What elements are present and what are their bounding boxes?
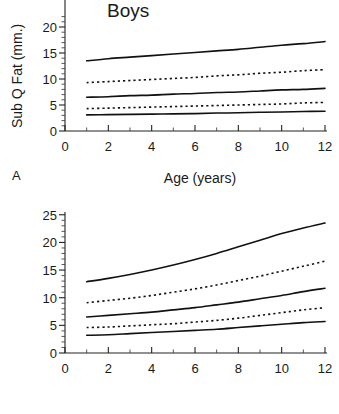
x-tick-label: 10 bbox=[274, 362, 288, 375]
x-tick-label: 6 bbox=[191, 362, 198, 375]
data-curve-4 bbox=[87, 321, 325, 335]
data-curve-3 bbox=[87, 308, 325, 328]
data-curve-0 bbox=[87, 42, 325, 61]
x-tick-label: 10 bbox=[274, 140, 288, 153]
boys-chart-title: Boys bbox=[107, 0, 149, 22]
chart-panel-boys: Boys Sub Q Fat (mm.) Age (years) A 05101… bbox=[0, 0, 339, 200]
x-tick-label: 4 bbox=[148, 362, 155, 375]
y-tick-label: 10 bbox=[31, 73, 57, 86]
data-curve-2 bbox=[87, 88, 325, 97]
y-tick-label: 0 bbox=[31, 347, 57, 360]
data-curve-1 bbox=[87, 261, 325, 302]
y-tick-label: 15 bbox=[31, 47, 57, 60]
x-tick-label: 8 bbox=[235, 362, 242, 375]
chart-panel-girls: Girls Sub Q Fat (mm.) Age (years) B 0510… bbox=[0, 200, 339, 414]
y-tick-label: 25 bbox=[31, 208, 57, 221]
x-tick-label: 12 bbox=[318, 362, 332, 375]
boys-x-axis-title: Age (years) bbox=[164, 170, 236, 186]
x-tick-label: 0 bbox=[61, 362, 68, 375]
data-curve-4 bbox=[87, 111, 325, 115]
x-tick-label: 0 bbox=[61, 140, 68, 153]
x-tick-label: 6 bbox=[191, 140, 198, 153]
data-curve-3 bbox=[87, 102, 325, 108]
x-tick-label: 4 bbox=[148, 140, 155, 153]
girls-plot-area bbox=[0, 200, 339, 414]
y-tick-label: 5 bbox=[31, 319, 57, 332]
panel-label-a: A bbox=[12, 168, 21, 183]
y-tick-label: 10 bbox=[31, 291, 57, 304]
x-tick-label: 12 bbox=[318, 140, 332, 153]
data-curve-2 bbox=[87, 288, 325, 317]
x-tick-label: 2 bbox=[105, 362, 112, 375]
y-tick-label: 20 bbox=[31, 21, 57, 34]
data-curve-1 bbox=[87, 70, 325, 83]
boys-y-axis-title: Sub Q Fat (mm.) bbox=[9, 24, 25, 128]
data-curve-0 bbox=[87, 223, 325, 282]
x-tick-label: 2 bbox=[105, 140, 112, 153]
y-tick-label: 15 bbox=[31, 264, 57, 277]
y-tick-label: 0 bbox=[31, 125, 57, 138]
y-tick-label: 5 bbox=[31, 99, 57, 112]
x-tick-label: 8 bbox=[235, 140, 242, 153]
y-tick-label: 20 bbox=[31, 236, 57, 249]
